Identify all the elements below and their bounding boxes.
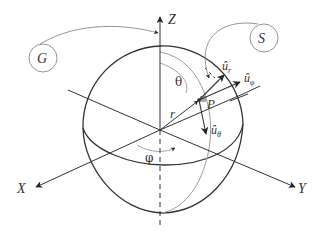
y-axis [160, 130, 295, 187]
phi-label: φ [145, 151, 153, 165]
callout-g-label: G [37, 51, 47, 66]
axes [36, 17, 295, 226]
u-r-label: ûr [222, 59, 232, 75]
theta-label: θ [175, 75, 182, 89]
x-axis-label: X [16, 181, 26, 196]
u-phi-label: ûφ [244, 71, 255, 87]
y-axis-label: Y [298, 181, 308, 196]
spherical-coordinates-diagram: G S Z X Y P r θ φ ûr ûφ ûθ [0, 0, 322, 231]
diagram-canvas: G S Z X Y P r θ φ ûr ûφ ûθ [0, 0, 322, 231]
callout-s-label: S [258, 31, 265, 46]
x-axis [36, 130, 160, 187]
u-theta-label: ûθ [211, 123, 221, 139]
u-theta-arrow [199, 100, 206, 134]
callout-s: S [205, 23, 278, 78]
u-phi-arrow [199, 82, 240, 100]
point-p-label: P [206, 96, 215, 111]
z-axis-label: Z [168, 12, 176, 27]
